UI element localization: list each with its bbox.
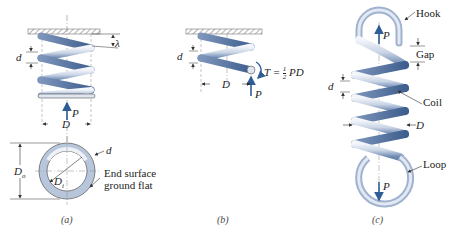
end-note-line1: End surface (104, 168, 156, 179)
gap-label: Gap (416, 49, 434, 60)
load-label: P (255, 89, 262, 100)
coil-label: Coil (423, 97, 442, 108)
wire-diameter-label: d (328, 81, 334, 92)
cut-spring-icon (201, 36, 251, 70)
ground-plate-icon (28, 29, 100, 34)
mean-diameter-label: D (222, 79, 230, 90)
torque-label: T = 12 PD (264, 66, 304, 81)
compression-spring-icon (41, 36, 91, 95)
end-note-line2: ground flat (104, 180, 153, 191)
caption-b: (b) (217, 214, 229, 225)
ground-plate-icon (186, 29, 262, 34)
wire-diameter-label: d (16, 52, 22, 63)
extension-spring-icon (355, 40, 405, 157)
ring-wire-label: d (106, 145, 112, 156)
loop-label: Loop (423, 159, 446, 170)
load-label: P (72, 108, 79, 119)
hook-label: Hook (416, 8, 440, 19)
load-top-label: P (383, 30, 390, 41)
torque-arrow-icon (256, 62, 261, 78)
mean-diameter-label: D (62, 119, 70, 130)
outer-diameter-label: Do (14, 166, 25, 180)
caption-a: (a) (61, 214, 73, 225)
mean-diameter-label: D (416, 120, 424, 131)
inner-diameter-label: Di (54, 176, 64, 190)
caption-c: (c) (372, 214, 383, 225)
load-bottom-label: P (383, 181, 390, 192)
pitch-label: λ (115, 38, 120, 49)
wire-diameter-label: d (177, 51, 183, 62)
